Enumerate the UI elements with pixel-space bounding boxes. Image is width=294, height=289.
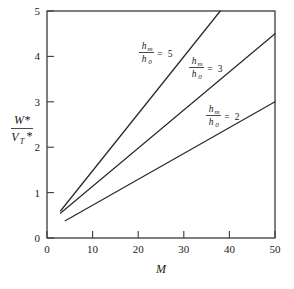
curve-label-numerator: h <box>209 104 214 114</box>
x-tick-labels: 0 10 20 30 40 50 <box>44 243 281 255</box>
x-axis-title: M <box>155 262 167 276</box>
curve-label-numerator: h <box>142 41 147 51</box>
x-tick-label: 10 <box>87 243 99 255</box>
y-tick-label: 0 <box>35 232 41 244</box>
y-axis-ticks <box>47 11 54 238</box>
data-curve-ratio-2 <box>65 102 275 221</box>
x-axis-ticks <box>47 231 275 238</box>
curve-label-value: 2 <box>235 112 240 122</box>
curve-label-numerator-sub: m <box>197 60 202 68</box>
curve-label-denominator: h <box>142 54 147 64</box>
curve-label-value: 5 <box>168 49 173 59</box>
x-tick-label: 20 <box>133 243 145 255</box>
curve-label-ratio-5: h m h 0 = 5 <box>139 41 173 66</box>
curve-label-denominator-sub: 0 <box>215 121 219 129</box>
y-tick-label: 5 <box>35 5 41 17</box>
curve-label-numerator: h <box>192 56 197 66</box>
x-tick-label: 0 <box>44 243 50 255</box>
data-curve-ratio-3 <box>61 34 275 213</box>
curve-label-equals: = <box>157 49 162 59</box>
x-tick-label: 50 <box>270 243 282 255</box>
chart-plot-area: 0 10 20 30 40 50 0 1 2 3 4 5 M W* V T * <box>0 0 294 289</box>
y-axis-title-denominator-sub: T <box>20 137 25 146</box>
curve-label-denominator-sub: 0 <box>198 73 202 81</box>
plot-frame <box>47 11 275 238</box>
y-tick-label: 1 <box>35 187 41 199</box>
curve-label-denominator: h <box>209 117 214 127</box>
curve-label-denominator-sub: 0 <box>148 58 152 66</box>
curve-label-equals: = <box>224 112 229 122</box>
x-tick-label: 30 <box>178 243 190 255</box>
y-axis-title-numerator: W* <box>14 113 30 127</box>
y-tick-label: 3 <box>35 96 41 108</box>
curve-label-numerator-sub: m <box>147 45 152 53</box>
curve-label-denominator: h <box>192 69 197 79</box>
y-tick-labels: 0 1 2 3 4 5 <box>35 5 41 244</box>
y-tick-label: 2 <box>35 141 41 153</box>
x-tick-label: 40 <box>224 243 236 255</box>
y-tick-label: 4 <box>35 50 41 62</box>
chart-figure: 0 10 20 30 40 50 0 1 2 3 4 5 M W* V T * <box>0 0 294 289</box>
data-curve-ratio-5 <box>61 11 221 211</box>
curve-label-value: 3 <box>218 64 223 74</box>
curve-label-ratio-3: h m h 0 = 3 <box>189 56 223 81</box>
y-axis-title-denominator-sup: * <box>26 129 32 143</box>
curve-label-equals: = <box>207 64 212 74</box>
y-axis-title: W* V T * <box>11 113 33 146</box>
curve-label-numerator-sub: m <box>214 108 219 116</box>
